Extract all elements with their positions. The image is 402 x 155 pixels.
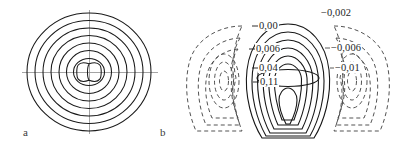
figure-canvas	[0, 0, 402, 155]
figure-background	[0, 0, 402, 155]
contour-label-0-00: 0,00	[258, 20, 279, 31]
contour-figure: a b 0,00 0,006 0,04 0,11 −0,002 −0,006 −…	[0, 0, 402, 155]
contour-label-negative-0-01: −0,01	[334, 62, 361, 73]
panel-label-a: a	[23, 126, 28, 138]
contour-label-negative-0-006: −0,006	[330, 42, 362, 53]
contour-label-negative-0-002: −0,002	[320, 7, 352, 18]
contour-label-0-04: 0,04	[258, 62, 279, 73]
contour-label-0-006: 0,006	[255, 43, 281, 54]
panel-label-b: b	[160, 126, 166, 138]
contour-label-0-11: 0,11	[259, 76, 279, 87]
